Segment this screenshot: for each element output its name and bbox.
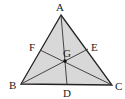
label-a: A	[56, 1, 64, 13]
label-d: D	[63, 87, 71, 99]
label-b: B	[9, 79, 16, 91]
triangle-diagram: A B C D E F G	[0, 0, 125, 99]
point-g	[63, 59, 67, 63]
label-f: F	[29, 41, 35, 53]
label-e: E	[91, 41, 98, 53]
label-g: G	[63, 47, 71, 59]
label-c: C	[115, 80, 122, 92]
